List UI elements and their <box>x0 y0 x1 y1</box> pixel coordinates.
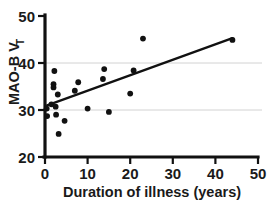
scatter-plot-figure: 20304050 01020304050 MAO-B V T Duration … <box>0 0 271 204</box>
data-point <box>44 106 50 112</box>
x-tick-label-20: 20 <box>122 165 139 182</box>
x-tick-label-40: 40 <box>207 165 224 182</box>
y-tick-label-50: 50 <box>18 8 35 25</box>
x-tick-label-30: 30 <box>164 165 181 182</box>
data-point <box>140 36 146 42</box>
y-axis-title-subscript: T <box>15 39 26 45</box>
y-axis-title: MAO-B V T <box>6 39 26 105</box>
data-point <box>51 85 57 91</box>
y-axis-title-text: MAO-B V <box>6 42 22 105</box>
data-point <box>53 112 59 118</box>
data-point <box>101 66 107 72</box>
data-point <box>85 106 91 112</box>
data-point <box>44 113 50 119</box>
data-point <box>100 76 106 82</box>
regression-trend-line <box>47 38 232 105</box>
x-tick-label-50: 50 <box>250 165 267 182</box>
y-tick-label-20: 20 <box>18 149 35 166</box>
chart-canvas: 20304050 01020304050 MAO-B V T Duration … <box>0 0 271 204</box>
x-tick-label-10: 10 <box>79 165 96 182</box>
data-point <box>56 131 62 137</box>
data-point <box>127 91 133 97</box>
x-tick-label-0: 0 <box>41 165 49 182</box>
data-point <box>51 68 57 74</box>
data-point <box>131 68 137 74</box>
data-points-group <box>44 36 236 137</box>
gridlines-group <box>45 63 262 110</box>
data-point <box>75 79 81 85</box>
data-point <box>72 88 78 94</box>
data-point <box>55 92 61 98</box>
data-point <box>53 104 59 110</box>
data-point <box>106 109 112 115</box>
x-axis-title-text: Duration of illness (years) <box>63 184 241 200</box>
data-point <box>62 118 68 124</box>
data-point <box>230 37 236 43</box>
x-tick-labels-group: 01020304050 <box>41 165 267 182</box>
